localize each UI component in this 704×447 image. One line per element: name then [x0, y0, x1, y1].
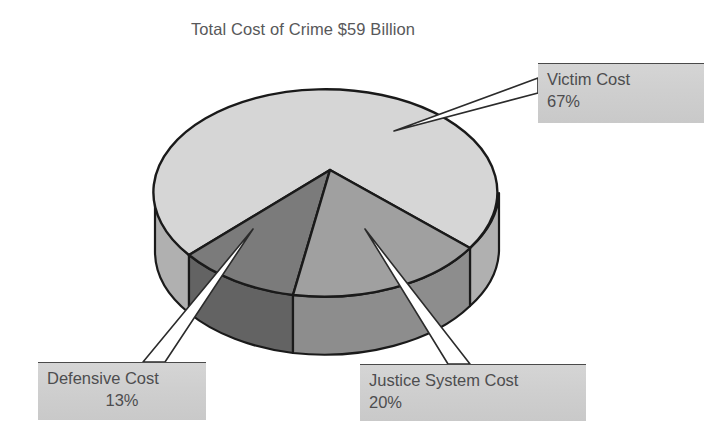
pie-3d-body [153, 89, 499, 354]
callout-victim-label: Victim Cost [547, 69, 695, 91]
callout-defensive-value: 13% [47, 390, 197, 412]
callout-justice-label: Justice System Cost [369, 370, 577, 392]
callout-victim-value: 67% [547, 91, 695, 113]
callout-victim-cost: Victim Cost 67% [538, 63, 704, 123]
callout-defensive-label: Defensive Cost [47, 368, 197, 390]
callout-justice-value: 20% [369, 392, 577, 414]
pie-chart-figure: Total Cost of Crime $59 Billion [0, 0, 704, 447]
callout-defensive-cost: Defensive Cost 13% [38, 362, 206, 420]
callout-justice-system-cost: Justice System Cost 20% [360, 364, 586, 421]
